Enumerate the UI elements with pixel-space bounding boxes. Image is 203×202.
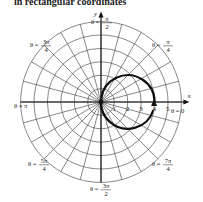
angle-label-theta-3pi-4: θ =	[30, 41, 39, 48]
y-axis-label: y	[93, 10, 98, 18]
angle-label-numerator: 5π	[41, 157, 48, 164]
tick-label: 3	[139, 105, 143, 113]
angle-label-numerator: π	[105, 15, 109, 22]
angle-label-theta-pi-2: θ =	[91, 18, 100, 25]
grid-spoke	[101, 102, 141, 172]
grid-spoke	[101, 102, 158, 159]
angle-label-denominator: 4	[44, 46, 48, 53]
tick-label: 1	[112, 105, 116, 113]
angle-label-denominator: 2	[104, 190, 107, 197]
angle-label-theta-7pi-4: θ =	[152, 160, 161, 167]
angle-label-numerator: 3π	[103, 182, 110, 189]
angle-label-theta-0: θ = 0	[171, 107, 184, 114]
angle-label-denominator: 4	[166, 46, 170, 53]
angle-label-denominator: 4	[42, 165, 46, 172]
grid-spoke	[61, 102, 101, 172]
polar-graph: xy12345θ = 0θ =π4θ =π2θ =3π4θ = πθ =5π4θ…	[0, 0, 203, 202]
x-axis-label: x	[186, 92, 191, 100]
tick-label: 2	[126, 105, 130, 113]
grid-spoke	[101, 45, 158, 102]
grid-spoke	[101, 32, 141, 102]
angle-label-numerator: 7π	[165, 157, 172, 164]
grid-spoke	[31, 62, 101, 102]
y-axis-arrow-icon	[99, 12, 104, 18]
angle-label-theta-3pi-2: θ =	[90, 185, 99, 192]
grid-spoke	[31, 102, 101, 142]
angle-label-numerator: π	[166, 38, 170, 45]
grid-spoke	[61, 32, 101, 102]
angle-label-theta-pi: θ = π	[14, 102, 28, 109]
tick-label: 5	[166, 105, 170, 113]
x-axis-arrow-icon	[183, 100, 189, 105]
angle-label-denominator: 2	[105, 23, 108, 30]
grid-spoke	[44, 102, 101, 159]
angle-label-theta-pi-4: θ =	[152, 41, 161, 48]
angle-label-denominator: 4	[166, 165, 170, 172]
angle-label-theta-5pi-4: θ =	[28, 160, 37, 167]
angle-label-numerator: 3π	[43, 38, 50, 45]
grid-spoke	[44, 45, 101, 102]
